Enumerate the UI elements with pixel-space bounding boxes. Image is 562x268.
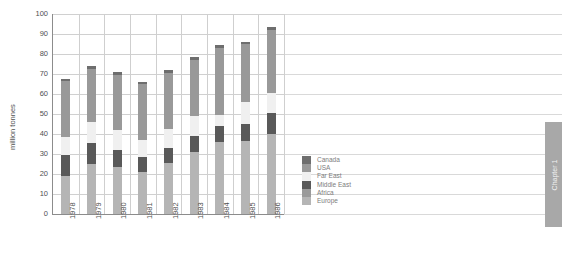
bar-segment-usa [164,73,173,129]
bar-segment-far-east [164,129,173,148]
bar-1986[interactable] [267,27,276,214]
bar-segment-usa [113,75,122,130]
legend-swatch-column [302,156,311,205]
bar-1978[interactable] [61,79,70,214]
y-axis-tick-label: 50 [40,110,48,118]
bar-segment-far-east [138,140,147,157]
bar-segment-middle-east [138,157,147,172]
y-axis-title: million tonnes [8,104,17,150]
bar-segment-middle-east [267,113,276,134]
bar-segment-far-east [267,93,276,113]
legend-swatch-far-east [302,172,311,180]
bar-segment-usa [190,60,199,116]
y-axis-tick-label: 80 [40,50,48,58]
y-axis-tick-label: 0 [44,210,48,218]
chart-legend: CanadaUSAFar EastMiddle EastAfricaEurope [302,156,351,205]
gridline-vertical [284,14,285,214]
y-axis-tick-label: 60 [40,90,48,98]
x-axis-tick-label: 1983 [196,202,205,219]
bar-1980[interactable] [113,72,122,214]
bar-1985[interactable] [241,42,250,214]
chapter-tab-label: Chapter 1 [550,159,557,190]
bar-segment-far-east [241,102,250,124]
gridline-vertical [207,14,208,214]
bar-segment-far-east [87,122,96,143]
bar-segment-far-east [61,137,70,155]
x-axis-tick-label: 1981 [145,202,154,219]
bar-1982[interactable] [164,70,173,214]
y-axis-tick-label: 90 [40,30,48,38]
gridline-vertical [181,14,182,214]
legend-label-canada: Canada [317,156,351,164]
gridline-vertical [233,14,234,214]
gridline-horizontal-inner [53,14,284,15]
bar-segment-middle-east [113,150,122,167]
legend-label-africa: Africa [317,189,351,197]
y-axis-tick-label: 10 [40,190,48,198]
plot-area: 0102030405060708090100 [52,14,284,215]
legend-label-column: CanadaUSAFar EastMiddle EastAfricaEurope [317,156,351,205]
bar-segment-middle-east [164,148,173,163]
legend-swatch-middle-east [302,181,311,189]
bar-segment-usa [61,81,70,137]
bar-segment-usa [138,84,147,140]
gridline-vertical [79,14,80,214]
legend-label-middle-east: Middle East [317,181,351,189]
gridline-vertical [258,14,259,214]
bar-segment-usa [87,69,96,122]
gridline-vertical [130,14,131,214]
chapter-tab[interactable]: Chapter 1 [545,122,562,227]
x-axis-tick-label: 1986 [273,202,282,219]
legend-swatch-usa [302,164,311,172]
bar-segment-usa [241,44,250,102]
legend-label-europe: Europe [317,197,351,205]
x-axis-tick-label: 1980 [119,202,128,219]
bar-segment-middle-east [215,126,224,142]
y-axis-tick-label: 30 [40,150,48,158]
legend-swatch-africa [302,189,311,197]
x-axis-tick-label: 1985 [248,202,257,219]
x-axis-tick-label: 1978 [68,202,77,219]
gridline-vertical [104,14,105,214]
x-axis-tick-label: 1984 [222,202,231,219]
bar-1983[interactable] [190,57,199,214]
x-axis-tick-label: 1979 [94,202,103,219]
bar-segment-middle-east [190,136,199,152]
y-axis-tick-label: 70 [40,70,48,78]
legend-swatch-europe [302,197,311,205]
y-axis-tick-label: 100 [35,10,48,18]
bar-1979[interactable] [87,66,96,214]
bar-1984[interactable] [215,45,224,214]
bar-segment-far-east [190,116,199,136]
x-axis-tick-label: 1982 [171,202,180,219]
bar-segment-middle-east [61,155,70,176]
bar-segment-usa [215,48,224,115]
legend-label-far-east: Far East [317,172,351,180]
y-axis-tick-label: 20 [40,170,48,178]
legend-label-usa: USA [317,164,351,172]
bar-segment-far-east [215,115,224,126]
bar-segment-usa [267,30,276,93]
bar-segment-middle-east [241,124,250,141]
bar-1981[interactable] [138,82,147,214]
gridline-vertical [156,14,157,214]
legend-swatch-canada [302,156,311,164]
bar-segment-far-east [113,130,122,150]
y-axis-tick-label: 40 [40,130,48,138]
gridline-horizontal-inner [53,34,284,35]
bar-segment-middle-east [87,143,96,164]
